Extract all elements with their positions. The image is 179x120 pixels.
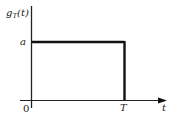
y-axis-label-arg: (t): [17, 7, 29, 18]
y-tick-amplitude: a: [20, 37, 26, 47]
x-tick-origin: 0: [23, 104, 29, 114]
x-tick-pulse-end: T: [120, 103, 127, 113]
pulse-chart: gT(t) a 0 T t: [0, 0, 179, 120]
x-axis-label: t: [162, 103, 166, 113]
y-axis-label: gT(t): [6, 8, 29, 20]
